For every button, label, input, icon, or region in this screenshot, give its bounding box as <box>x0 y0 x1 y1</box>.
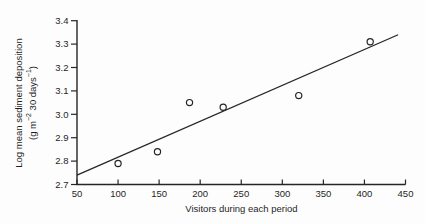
y-axis-units-superscript: −1 <box>25 69 32 77</box>
scatter-chart-figure: 2.72.82.93.03.13.23.33.45010015020025030… <box>0 0 425 224</box>
x-axis-label: Visitors during each period <box>77 203 406 214</box>
trend-line <box>77 35 398 175</box>
x-tick-label: 300 <box>274 188 290 199</box>
y-tick-label: 3.4 <box>55 15 68 26</box>
x-tick-label: 150 <box>151 188 167 199</box>
y-tick-label: 2.8 <box>55 155 68 166</box>
scatter-point <box>186 100 192 106</box>
y-axis-units-part: 30 days <box>27 77 38 113</box>
scatter-point <box>154 149 160 155</box>
y-axis-label-line1: Log mean sediment deposition <box>12 16 26 191</box>
x-tick-label: 400 <box>357 188 373 199</box>
x-tick-label: 450 <box>398 188 414 199</box>
axis-frame <box>77 20 406 185</box>
y-axis-label: Log mean sediment deposition (g m−2 30 d… <box>12 16 42 191</box>
x-tick-label: 350 <box>315 188 331 199</box>
y-tick-label: 2.9 <box>55 132 68 143</box>
x-tick-label: 200 <box>192 188 208 199</box>
y-axis-units-part: ) <box>27 66 38 69</box>
x-tick-label: 250 <box>233 188 249 199</box>
y-tick-label: 3.2 <box>55 62 68 73</box>
y-tick-label: 3.3 <box>55 38 68 49</box>
y-tick-label: 2.7 <box>55 179 68 190</box>
y-axis-units-part: (g m <box>27 121 38 140</box>
x-tick-label: 100 <box>110 188 126 199</box>
scatter-point <box>367 39 373 45</box>
y-tick-label: 3.0 <box>55 109 68 120</box>
x-tick-label: 50 <box>72 188 83 199</box>
y-axis-label-line2: (g m−2 30 days−1) <box>26 16 40 191</box>
scatter-point <box>296 92 302 98</box>
scatter-point <box>220 104 226 110</box>
scatter-point <box>115 160 121 166</box>
y-tick-label: 3.1 <box>55 85 68 96</box>
plot-area: 2.72.82.93.03.13.23.33.45010015020025030… <box>0 0 425 224</box>
y-axis-units-superscript: −2 <box>25 113 32 121</box>
